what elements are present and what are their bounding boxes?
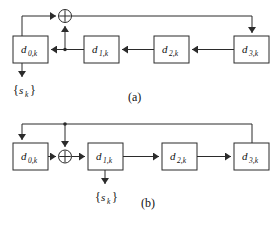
register-label-d2-b: d (170, 150, 176, 162)
register-box-d0-b: d 0,k (13, 143, 48, 170)
register-sub-d0-b: 0,k (28, 156, 38, 165)
output-open-brace-a: { (13, 83, 19, 97)
register-box-d1-b: d 1,k (88, 143, 123, 170)
register-sub-d0-a: 0,k (28, 49, 38, 58)
output-label-b: { s k } (95, 190, 118, 206)
wire-xor-to-d3-a (72, 16, 253, 33)
caption-panel-a: (a) (128, 90, 141, 104)
output-sub-b: k (107, 197, 111, 206)
figure-svg: d 0,k d 1,k d 2,k d 3,k (0, 0, 276, 225)
panel-a: d 0,k d 1,k d 2,k d 3,k (13, 10, 269, 105)
register-box-d2-b: d 2,k (162, 143, 197, 170)
register-box-d1-a: d 1,k (84, 36, 119, 63)
output-label-a: { s k } (13, 83, 36, 99)
register-sub-d1-b: 1,k (103, 156, 113, 165)
output-open-brace-b: { (95, 190, 101, 204)
figure-container: d 0,k d 1,k d 2,k d 3,k (0, 0, 276, 225)
output-close-brace-a: } (30, 83, 36, 97)
register-label-d1-b: d (96, 150, 102, 162)
register-label-d0-a: d (21, 43, 27, 55)
register-box-d2-a: d 2,k (154, 36, 189, 63)
output-close-brace-b: } (112, 190, 118, 204)
xor-adder-a (59, 10, 72, 23)
output-base-b: s (101, 191, 105, 203)
panel-b: d 0,k d 1,k d 2,k d 3,k (13, 122, 269, 210)
register-label-d3-a: d (242, 43, 248, 55)
wire-d0-to-xor-a (22, 16, 56, 36)
register-label-d0-b: d (21, 150, 27, 162)
register-label-d1-a: d (92, 43, 98, 55)
register-label-d2-a: d (162, 43, 168, 55)
register-sub-d3-a: 3,k (248, 49, 259, 58)
register-label-d3-b: d (242, 150, 248, 162)
register-sub-d1-a: 1,k (99, 49, 109, 58)
register-box-d3-a: d 3,k (234, 36, 269, 63)
output-sub-a: k (25, 90, 29, 99)
register-sub-d3-b: 3,k (248, 156, 259, 165)
register-sub-d2-a: 2,k (169, 49, 179, 58)
register-box-d0-a: d 0,k (13, 36, 48, 63)
output-base-a: s (19, 84, 23, 96)
register-box-d3-b: d 3,k (234, 143, 269, 170)
wire-d3-feedback-bus-b (22, 124, 252, 143)
caption-panel-b: (b) (141, 196, 155, 210)
register-sub-d2-b: 2,k (177, 156, 187, 165)
xor-adder-b (59, 150, 72, 163)
